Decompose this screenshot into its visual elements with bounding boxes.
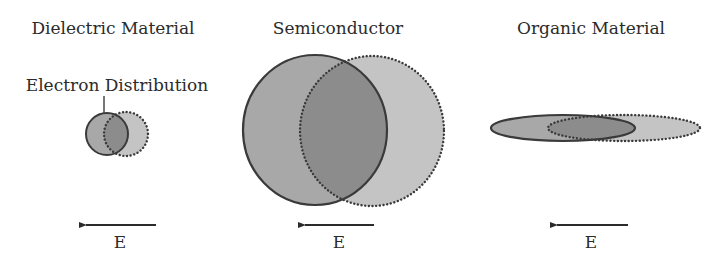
- field-label: E: [585, 232, 597, 252]
- panel-dielectric: Dielectric Material Electron Distributio…: [26, 18, 208, 252]
- panel-organic: Organic Material E: [491, 18, 700, 252]
- panel-title: Dielectric Material: [31, 18, 194, 38]
- electron-distribution-label: Electron Distribution: [26, 75, 208, 95]
- panel-semiconductor: Semiconductor E: [243, 18, 444, 252]
- panel-title: Organic Material: [517, 18, 665, 38]
- charge-distribution: [243, 55, 444, 206]
- polarization-diagram: Dielectric Material Electron Distributio…: [0, 0, 724, 265]
- charge-distribution: [86, 112, 148, 156]
- panel-title: Semiconductor: [273, 18, 404, 38]
- field-label: E: [114, 232, 126, 252]
- field-label: E: [333, 232, 345, 252]
- diagram-svg: Dielectric Material Electron Distributio…: [0, 0, 724, 265]
- charge-distribution: [491, 115, 700, 141]
